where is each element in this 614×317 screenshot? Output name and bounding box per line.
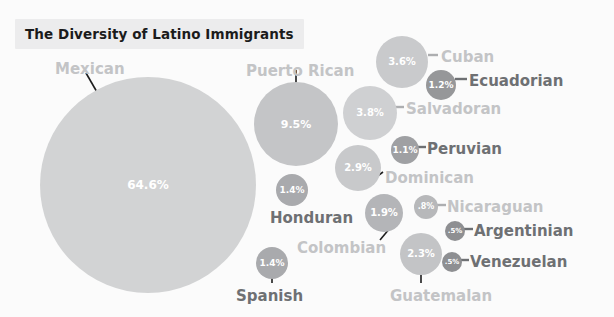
bubble-nicaraguan[interactable]: .8% [414,195,438,219]
category-label-ecuadorian: Ecuadorian [469,74,563,89]
category-label-argentinian: Argentinian [474,224,574,239]
bubble-value-label: 9.5% [281,119,312,130]
category-label-peruvian: Peruvian [427,142,502,157]
bubble-value-label: 1.2% [429,81,454,90]
bubble-mexican[interactable]: 64.6% [40,77,256,293]
category-label-colombian: Colombian [297,241,386,256]
category-label-puerto-rican: Puerto Rican [246,64,354,79]
bubble-peruvian[interactable]: 1.1% [391,136,419,164]
category-label-venezuelan: Venezuelan [470,255,567,270]
bubble-value-label: .5% [445,259,460,266]
bubble-guatemalan[interactable]: 2.3% [400,233,442,275]
bubble-value-label: 64.6% [127,179,169,191]
bubble-cuban[interactable]: 3.6% [376,36,428,88]
category-label-honduran: Honduran [270,211,353,226]
bubble-salvadoran[interactable]: 3.8% [343,86,397,140]
category-label-guatemalan: Guatemalan [390,289,492,304]
bubble-venezuelan[interactable]: .5% [442,252,462,272]
bubble-value-label: 1.9% [370,208,398,218]
bubble-dominican[interactable]: 2.9% [335,145,381,191]
category-label-cuban: Cuban [441,50,494,65]
bubble-value-label: 3.6% [388,57,416,67]
bubble-value-label: 2.3% [407,249,435,259]
category-label-mexican: Mexican [55,62,125,77]
bubble-honduran[interactable]: 1.4% [276,174,308,206]
bubble-chart: The Diversity of Latino Immigrants 64.6%… [0,0,614,317]
category-label-spanish: Spanish [236,289,303,304]
bubble-ecuadorian[interactable]: 1.2% [426,70,456,100]
bubble-value-label: 1.4% [260,259,285,268]
bubble-value-label: 2.9% [344,163,372,173]
bubble-value-label: 1.1% [393,146,418,155]
bubble-value-label: .5% [448,228,463,235]
bubble-value-label: 3.8% [356,108,384,118]
bubble-puerto-rican[interactable]: 9.5% [254,82,338,166]
category-label-salvadoran: Salvadoran [406,102,501,117]
category-label-dominican: Dominican [385,171,474,186]
bubble-value-label: .8% [418,203,435,211]
category-label-nicaraguan: Nicaraguan [447,200,543,215]
bubble-argentinian[interactable]: .5% [445,221,465,241]
bubble-value-label: 1.4% [280,186,305,195]
bubble-colombian[interactable]: 1.9% [365,194,403,232]
bubble-spanish[interactable]: 1.4% [256,247,288,279]
